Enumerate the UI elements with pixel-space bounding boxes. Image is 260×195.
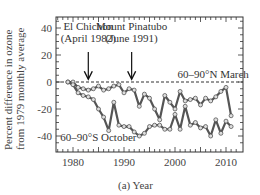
data-point: [112, 100, 116, 104]
data-point: [163, 127, 167, 131]
data-point: [178, 127, 182, 131]
x-tick-label: 2000: [164, 156, 187, 168]
data-point: [163, 94, 167, 98]
data-point: [158, 123, 162, 127]
data-point: [142, 131, 146, 135]
data-point: [214, 118, 218, 122]
data-point: [71, 83, 75, 87]
x-tick-label: 1990: [113, 156, 136, 168]
annotation-text: (June 1991): [106, 32, 159, 45]
data-point: [86, 95, 90, 99]
data-point: [193, 121, 197, 125]
y-tick-label: 20: [41, 49, 53, 61]
data-point: [117, 123, 121, 127]
data-point: [173, 107, 177, 111]
data-point: [224, 85, 228, 89]
data-point: [112, 84, 116, 88]
data-point: [107, 87, 111, 91]
data-point: [168, 127, 172, 131]
data-point: [102, 88, 106, 92]
data-point: [102, 115, 106, 119]
annotations: El Chichon(April 1982)Mount Pinatubo(Jun…: [61, 20, 168, 79]
data-point: [117, 83, 121, 87]
data-point: [81, 94, 85, 98]
data-point: [193, 96, 197, 100]
data-point: [148, 125, 152, 129]
data-point: [137, 104, 141, 108]
x-tick-label: 1980: [62, 156, 85, 168]
data-point: [97, 107, 101, 111]
data-point: [127, 125, 131, 129]
data-point: [229, 125, 233, 129]
data-point: [229, 114, 233, 118]
data-point: [86, 88, 90, 92]
data-point: [183, 99, 187, 103]
data-point: [127, 87, 131, 91]
data-point: [188, 123, 192, 127]
data-point: [183, 104, 187, 108]
y-tick-label: -20: [37, 103, 52, 115]
data-point: [137, 134, 141, 138]
data-point: [132, 88, 136, 92]
data-point: [168, 100, 172, 104]
data-point: [173, 112, 177, 116]
ozone-line-chart: 40200-20-401980199020002010 60–90°N Marc…: [0, 0, 260, 195]
data-point: [81, 87, 85, 91]
series-nh-march: 60–90°N March: [66, 68, 249, 122]
data-point: [219, 131, 223, 135]
data-point: [209, 134, 213, 138]
annotation-pinatubo: Mount Pinatubo(June 1991): [96, 20, 168, 79]
y-tick-label: 40: [41, 22, 53, 34]
annotation-text: Mount Pinatubo: [96, 20, 168, 32]
x-tick-label: 2010: [215, 156, 238, 168]
data-point: [188, 98, 192, 102]
data-point: [122, 91, 126, 95]
data-point: [204, 96, 208, 100]
data-point: [178, 89, 182, 93]
data-point: [199, 126, 203, 130]
y-tick-label: 0: [47, 76, 53, 88]
data-point: [91, 98, 95, 102]
data-point: [153, 123, 157, 127]
data-point: [76, 91, 80, 95]
data-point: [148, 96, 152, 100]
y-tick-label: -40: [37, 130, 52, 142]
data-point: [204, 125, 208, 129]
data-point: [158, 118, 162, 122]
data-point: [66, 80, 70, 84]
data-point: [122, 125, 126, 129]
data-point: [209, 99, 213, 103]
data-point: [91, 87, 95, 91]
data-point: [199, 103, 203, 107]
data-point: [214, 95, 218, 99]
data-point: [97, 84, 101, 88]
x-axis-label: (a) Year: [118, 179, 153, 191]
data-point: [224, 119, 228, 123]
y-axis-label: Percent difference in ozone from 1979 mo…: [2, 28, 26, 151]
data-point: [153, 107, 157, 111]
series-label: 60–90°S October: [60, 131, 137, 143]
data-point: [142, 92, 146, 96]
data-point: [219, 89, 223, 93]
series-label: 60–90°N March: [178, 68, 250, 80]
